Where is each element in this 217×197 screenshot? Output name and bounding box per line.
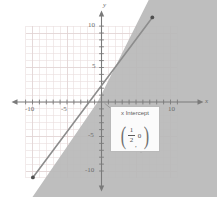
- fraction-numerator: 1: [129, 127, 135, 134]
- y-axis-label: y: [103, 2, 106, 9]
- callout-coordinate: ( 1 2 , 0 ): [111, 120, 159, 151]
- graph-figure: [0, 0, 217, 197]
- callout-title: x Intercept: [111, 110, 159, 116]
- y-tick-label-neg5: -5: [88, 132, 94, 139]
- x-axis-label: x: [205, 98, 208, 105]
- fraction-denominator: 2: [129, 137, 135, 144]
- y-tick-label-neg10: -10: [85, 167, 94, 174]
- left-paren: (: [121, 123, 126, 149]
- line-endpoint-lower-left: [31, 176, 35, 180]
- fraction-one-half: 1 2: [128, 127, 135, 144]
- line-endpoint-upper-right: [150, 16, 154, 20]
- y-tick-label-pos10: 10: [88, 22, 95, 29]
- right-paren: ): [144, 123, 149, 149]
- x-tick-label-neg10: -10: [25, 106, 34, 113]
- y-tick-label-pos5: 5: [92, 63, 96, 70]
- x-tick-label-pos10: 10: [168, 106, 175, 113]
- x-intercept-callout: x Intercept ( 1 2 , 0 ): [110, 106, 160, 152]
- coordinate-comma: ,: [135, 141, 137, 151]
- x-tick-label-neg5: -5: [61, 106, 67, 113]
- coordinate-y-value: 0: [137, 132, 143, 140]
